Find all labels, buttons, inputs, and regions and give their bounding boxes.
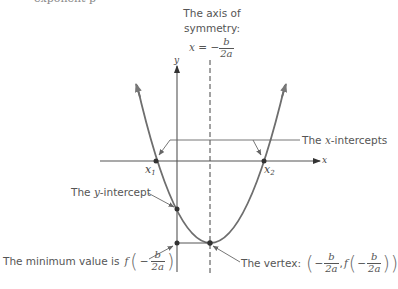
clipped-top-text: exponent p bbox=[34, 0, 96, 4]
axis-of-symmetry-line2: symmetry: bbox=[184, 23, 240, 34]
y-intercept-label: The y-intercept bbox=[71, 187, 151, 198]
x2-label: x2 bbox=[264, 163, 275, 177]
vertex-label: The vertex: (−b2a, f(−b2a)) bbox=[241, 252, 398, 274]
x-intercepts-label: The x-intercepts bbox=[300, 135, 387, 146]
vertex-point bbox=[207, 240, 212, 245]
vertex-leader bbox=[213, 246, 240, 262]
x-intercepts-leader bbox=[159, 140, 320, 155]
x-axis-label: x bbox=[322, 155, 327, 165]
fraction: b2a bbox=[219, 37, 233, 59]
axis-of-symmetry-line1: The axis of bbox=[183, 8, 240, 19]
minimum-value-label: The minimum value is f (−b2a) bbox=[3, 250, 174, 272]
x1-label: x1 bbox=[145, 163, 156, 177]
y-intercept-point bbox=[175, 207, 180, 212]
minimum-point bbox=[175, 241, 180, 246]
axis-of-symmetry-equation: x = −b2a bbox=[189, 37, 234, 59]
parabola-curve bbox=[137, 85, 285, 243]
y-axis-label: y bbox=[174, 55, 179, 65]
